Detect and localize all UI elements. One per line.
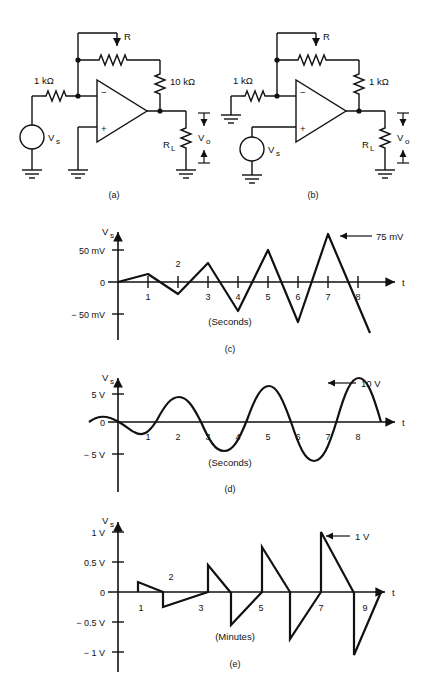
plot-c-ylabel-sub: s [110, 231, 114, 240]
plot-c-xtick-1: 1 [145, 292, 150, 302]
plot-d-ylabel-sub: s [110, 377, 114, 386]
plot-d-ytick-2: − 5 V [84, 450, 105, 460]
caption-e: (e) [230, 659, 241, 669]
plot-d-ytick-0: 5 V [91, 390, 105, 400]
output-voltage-label-sub: o [206, 137, 211, 146]
circuit-b: 1 kΩ R 1 kΩ − + V s R L [221, 31, 410, 200]
plot-d-xlabel: t [402, 417, 405, 428]
plot-d-ylabel: V [102, 372, 109, 383]
feedback-pot-label-b: R [323, 31, 330, 42]
circuit-a: V s 1 kΩ R 10 kΩ − [20, 31, 211, 200]
caption-c: (c) [225, 344, 236, 354]
plot-e-xtick-7: 7 [318, 603, 323, 613]
voltage-source-symbol-b [240, 137, 264, 161]
plot-e-xtick-1: 1 [138, 603, 143, 613]
plot-e-ytick-2: 0 [100, 588, 105, 598]
opamp-noninverting-sign: + [101, 123, 107, 134]
voltage-source-symbol [20, 125, 44, 149]
series-resistor-label-b: 1 kΩ [369, 76, 389, 87]
source-label: V [48, 132, 55, 143]
figure-svg: V s 1 kΩ R 10 kΩ − [0, 0, 441, 688]
plot-d-waveform [89, 378, 381, 461]
input-resistor-label-b: 1 kΩ [233, 75, 253, 86]
plot-d-xtick-2: 2 [175, 432, 180, 442]
plot-c-ylabel: V [102, 226, 109, 237]
plot-e-xtick-2-above: 2 [168, 572, 173, 582]
plot-c-xlabel: t [402, 277, 405, 288]
input-resistor-label: 1 kΩ [34, 75, 54, 86]
output-voltage-label-b-sub: o [405, 137, 410, 146]
ground-source-b [242, 175, 262, 183]
opamp-inverting-sign-b: − [300, 87, 306, 98]
load-label-b: R [362, 139, 369, 150]
series-resistor-label: 10 kΩ [170, 76, 195, 87]
plot-e-xtick-3: 3 [198, 603, 203, 613]
ground-load-b [375, 170, 395, 178]
plot-c-ytick-2: − 50 mV [71, 310, 105, 320]
plot-c: V s t 50 mV 0 − 50 mV 1 2 3 4 5 6 7 8 [71, 226, 405, 354]
plot-d: V s t 5 V 0 − 5 V 1 2 3 4 5 6 7 8 10 V (… [84, 372, 405, 494]
plot-d-annotation-label: 10 V [361, 378, 381, 389]
ground-noninv-a [68, 170, 88, 178]
caption-d: (d) [225, 484, 236, 494]
load-label-b-sub: L [370, 144, 375, 153]
plot-c-ytick-1: 0 [100, 278, 105, 288]
feedback-pot-label: R [124, 31, 131, 42]
feedback-resistor-symbol-b [277, 55, 359, 65]
caption-a: (a) [109, 190, 120, 200]
load-label-sub: L [171, 144, 176, 153]
plot-e-units-note: (Minutes) [215, 631, 255, 642]
output-voltage-label-b: V [397, 132, 404, 143]
input-resistor-symbol [42, 91, 78, 101]
load-label: R [163, 139, 170, 150]
plot-d-xtick-8: 8 [355, 432, 360, 442]
plot-c-xtick-5: 5 [265, 292, 270, 302]
opamp-inverting-sign: − [101, 87, 107, 98]
ground-input-b [221, 115, 241, 123]
plot-c-ytick-0: 50 mV [79, 246, 105, 256]
plot-c-units-note: (Seconds) [208, 316, 251, 327]
opamp-noninverting-sign-b: + [300, 123, 306, 134]
plot-e-ylabel-sub: s [110, 520, 114, 529]
plot-d-ytick-1: 0 [100, 418, 105, 428]
plot-d-xtick-5: 5 [265, 432, 270, 442]
plot-e-annotation-label: 1 V [355, 531, 370, 542]
source-label-sub: s [56, 137, 60, 146]
ground-source-a [22, 170, 42, 178]
figure-root: V s 1 kΩ R 10 kΩ − [0, 0, 441, 688]
plot-c-xtick-4: 4 [235, 292, 240, 302]
caption-b: (b) [308, 190, 319, 200]
plot-e-xtick-5: 5 [258, 603, 263, 613]
series-resistor-symbol [155, 70, 165, 111]
source-label-b-sub: s [276, 149, 280, 158]
plot-e-waveform [138, 532, 381, 655]
load-resistor-symbol [181, 124, 191, 170]
plot-e-ytick-4: − 1 V [84, 648, 105, 658]
ground-load-a [176, 170, 196, 178]
plot-e-xtick-9: 9 [362, 603, 367, 613]
plot-c-xtick-7: 7 [325, 292, 330, 302]
plot-e-xlabel: t [392, 587, 395, 598]
input-resistor-symbol-b [241, 91, 277, 101]
plot-c-xtick-6: 6 [295, 292, 300, 302]
plot-c-xtick-2: 2 [175, 259, 180, 269]
plot-e-ytick-3: − 0.5 V [76, 618, 105, 628]
plot-e-ytick-1: 0.5 V [84, 558, 105, 568]
source-label-b: V [268, 144, 275, 155]
plot-e: V s t 1 V 0.5 V 0 − 0.5 V − 1 V 1 2 3 5 … [76, 515, 395, 672]
plot-e-ylabel: V [102, 515, 109, 526]
feedback-resistor-symbol [78, 55, 160, 65]
plot-c-annotation-label: 75 mV [376, 231, 404, 242]
plot-d-units-note: (Seconds) [208, 457, 251, 468]
output-voltage-label: V [198, 132, 205, 143]
plot-c-xtick-3: 3 [205, 292, 210, 302]
plot-e-ytick-0: 1 V [91, 528, 105, 538]
load-resistor-symbol-b [380, 124, 390, 170]
series-resistor-symbol-b [354, 70, 364, 111]
